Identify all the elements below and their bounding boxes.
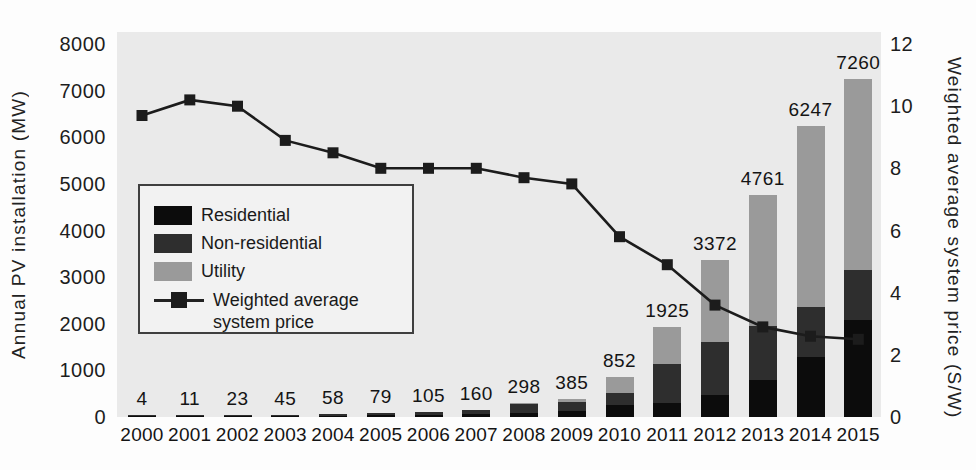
bar-segment-residential (367, 415, 395, 417)
legend-label-residential: Residential (201, 205, 290, 226)
left-axis-tick-label: 8000 (0, 33, 106, 55)
left-axis-tick-label: 2000 (0, 313, 106, 335)
left-axis-tick-label: 4000 (0, 220, 106, 242)
price-line-marker-icon (154, 289, 204, 311)
left-axis-tick-label: 3000 (0, 266, 106, 288)
left-axis-tick-label: 1000 (0, 359, 106, 381)
bar-segment-residential (653, 403, 681, 417)
bar-segment-residential (224, 416, 252, 417)
legend-item-utility: Utility (154, 257, 412, 285)
bar-segment-non-residential (510, 404, 538, 413)
right-axis-tick-label: 8 (890, 157, 950, 179)
residential-swatch-icon (154, 206, 192, 225)
right-axis-tick-label: 0 (890, 406, 950, 428)
bar-segment-residential (176, 416, 204, 417)
right-axis-tick-label: 10 (890, 95, 950, 117)
bar-segment-residential (558, 411, 586, 417)
bar-total-label: 7260 (816, 52, 900, 74)
bar-group-2000 (128, 415, 156, 418)
bar-segment-residential (701, 395, 729, 417)
legend-label-utility: Utility (201, 261, 245, 282)
bar-segment-non-residential (749, 326, 777, 380)
right-axis-tick-label: 2 (890, 344, 950, 366)
bar-group-2001 (176, 415, 204, 417)
bar-segment-residential (797, 357, 825, 417)
bar-segment-residential (844, 320, 872, 417)
legend: Residential Non-residential Utility Weig… (138, 184, 414, 334)
bar-total-label: 852 (578, 350, 662, 372)
bar-segment-residential (462, 414, 490, 417)
legend-item-non-residential: Non-residential (154, 229, 412, 257)
year-label: 2015 (824, 424, 892, 446)
bar-segment-non-residential (606, 393, 634, 406)
bar-total-label: 6247 (769, 99, 853, 121)
legend-price-line2: system price (213, 312, 314, 332)
bar-segment-residential (128, 416, 156, 417)
bar-group-2004 (319, 414, 347, 417)
bar-group-2006 (415, 412, 443, 417)
bar-group-2013 (749, 195, 777, 417)
left-axis-tick-label: 7000 (0, 80, 106, 102)
left-axis-tick-label: 6000 (0, 126, 106, 148)
bar-group-2002 (224, 415, 252, 417)
left-axis-tick-label: 0 (0, 406, 106, 428)
legend-label-non-residential: Non-residential (201, 233, 322, 254)
chart-container: Annual PV installation (MW) Weighted ave… (0, 0, 976, 470)
bar-segment-non-residential (558, 402, 586, 411)
legend-item-price-line: Weighted average system price (154, 289, 412, 333)
bar-total-label: 3372 (673, 233, 757, 255)
bar-segment-non-residential (701, 342, 729, 395)
bar-total-label: 1925 (625, 300, 709, 322)
bar-segment-utility (749, 195, 777, 326)
bar-segment-residential (606, 405, 634, 417)
bar-segment-utility (797, 126, 825, 307)
bar-segment-residential (415, 415, 443, 417)
bar-total-label: 4761 (721, 168, 805, 190)
bar-segment-residential (319, 416, 347, 417)
bar-segment-residential (510, 413, 538, 417)
bar-group-2012 (701, 260, 729, 417)
bar-group-2007 (462, 410, 490, 417)
non-residential-swatch-icon (154, 234, 192, 253)
bar-group-2008 (510, 403, 538, 417)
bar-segment-residential (749, 380, 777, 417)
legend-label-price-line: Weighted average system price (213, 289, 359, 333)
line-sample-square-marker (171, 292, 187, 308)
bar-segment-non-residential (844, 270, 872, 320)
bar-segment-residential (271, 416, 299, 417)
bar-segment-non-residential (797, 307, 825, 357)
bar-group-2009 (558, 399, 586, 417)
right-axis-tick-label: 4 (890, 282, 950, 304)
left-axis-tick-label: 5000 (0, 173, 106, 195)
bar-group-2015 (844, 79, 872, 417)
utility-swatch-icon (154, 262, 192, 281)
bar-group-2005 (367, 413, 395, 417)
legend-item-residential: Residential (154, 201, 412, 229)
bar-total-label: 385 (530, 372, 614, 394)
bar-group-2003 (271, 415, 299, 417)
right-axis-tick-label: 6 (890, 220, 950, 242)
legend-price-line1: Weighted average (213, 290, 359, 310)
